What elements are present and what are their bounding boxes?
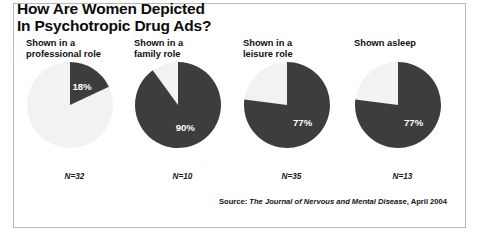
source-prefix: Source: [219,197,249,206]
pie-svg: 77% [354,61,442,149]
pie-sample-size: N=32 [18,172,131,181]
infographic: How Are Women Depicted In Psychotropic D… [0,0,479,234]
pie-label: Shown in a leisure role [243,38,347,60]
pie-chart-group: Shown in a professional role 18% N=32 Sh… [13,38,466,198]
source-journal: The Journal of Nervous and Mental Diseas… [249,197,406,206]
pie-label: Shown in a professional role [26,38,130,60]
pie-svg: 77% [243,61,331,149]
pie-panel-family-role: Shown in a family role 90% N=10 [126,38,239,198]
pie-panel-asleep: Shown asleep 77% N=13 [346,38,459,198]
pie-value-label: 77% [293,117,313,128]
pie-value-label: 18% [72,81,92,92]
pie-chart-professional-role: 18% [26,61,114,149]
pie-svg: 90% [134,61,222,149]
page-title: How Are Women Depicted In Psychotropic D… [17,1,437,34]
pie-panel-professional-role: Shown in a professional role 18% N=32 [18,38,131,198]
pie-sample-size: N=10 [126,172,239,181]
pie-sample-size: N=13 [346,172,459,181]
pie-chart-asleep: 77% [354,61,442,149]
pie-svg: 18% [26,61,114,149]
source-date: , April 2004 [407,197,447,206]
source-credit: Source: The Journal of Nervous and Menta… [0,197,447,206]
pie-value-label: 90% [176,122,196,133]
pie-chart-leisure-role: 77% [243,61,331,149]
pie-label: Shown in a family role [134,38,238,60]
pie-panel-leisure-role: Shown in a leisure role 77% N=35 [235,38,348,198]
pie-sample-size: N=35 [235,172,348,181]
pie-value-label: 77% [404,117,424,128]
pie-chart-family-role: 90% [134,61,222,149]
pie-slice-value [135,62,221,148]
pie-label: Shown asleep [354,38,458,49]
